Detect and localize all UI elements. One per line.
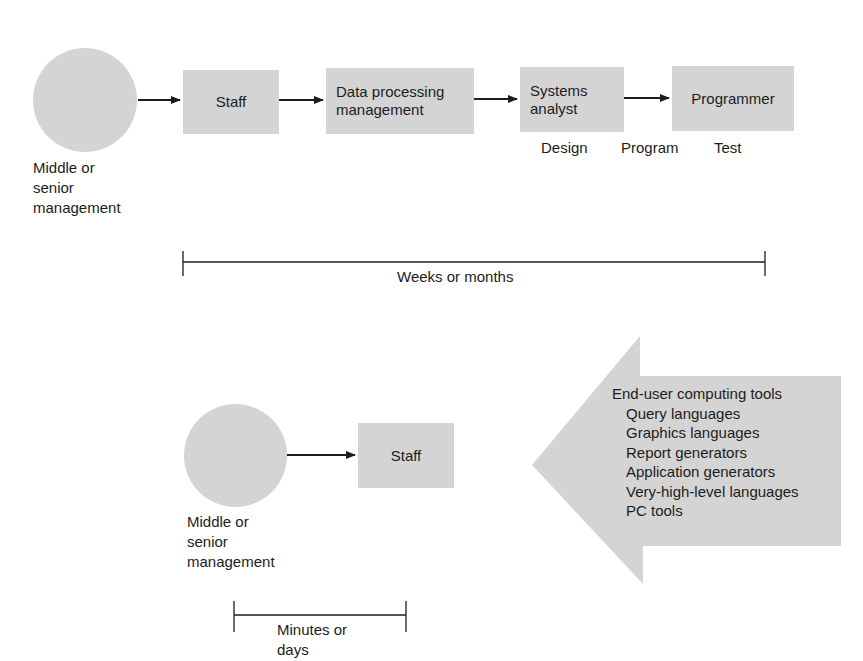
label-line: senior [187,532,275,552]
node-programmer: Programmer [672,66,794,131]
tool-item: Report generators [612,443,799,463]
timescale-label-weeks: Weeks or months [397,267,513,287]
node-label: management [336,101,444,119]
node-staff-top: Staff [183,70,279,134]
node-systems-analyst: Systems analyst [520,67,624,132]
label-line: Middle or [33,158,121,178]
node-data-processing-management: Data processing management [326,68,474,134]
tool-item: Application generators [612,462,799,482]
management-label-bottom: Middle or senior management [187,512,275,572]
phase-program: Program [621,138,679,158]
node-staff-bottom: Staff [358,423,454,488]
node-label: Data processing [336,83,444,101]
tools-title: End-user computing tools [612,384,799,404]
tool-item: PC tools [612,501,799,521]
phase-test: Test [714,138,742,158]
label-line: management [187,552,275,572]
phase-design: Design [541,138,588,158]
tool-item: Very-high-level languages [612,482,799,502]
label-line: Middle or [187,512,275,532]
tool-item: Query languages [612,404,799,424]
timescale-label-minutes: Minutes or days [277,620,347,660]
management-label-top: Middle or senior management [33,158,121,218]
label-line: senior [33,178,121,198]
label-line: days [277,640,347,660]
node-label: analyst [530,100,588,118]
management-circle-top [33,48,137,152]
management-circle-bottom [184,404,287,507]
tool-item: Graphics languages [612,423,799,443]
tools-list: End-user computing tools Query languages… [612,384,799,521]
node-label: Systems [530,82,588,100]
node-label: Programmer [691,90,774,108]
label-line: Minutes or [277,620,347,640]
node-label: Staff [391,447,422,465]
node-label: Staff [216,93,247,111]
label-line: management [33,198,121,218]
